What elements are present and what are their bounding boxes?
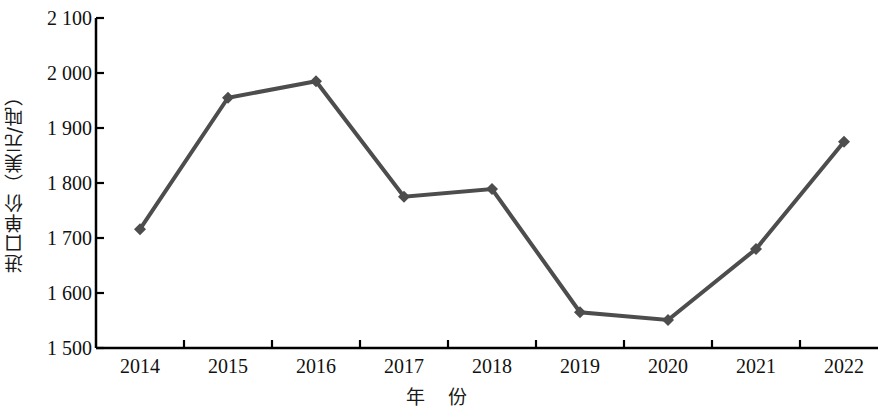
x-tick-label: 2022 (804, 356, 881, 376)
x-tick-label: 2018 (452, 356, 532, 376)
line-chart: 进口单价（美元/吨） 2 100 2 000 1 900 1 800 1 700… (0, 0, 881, 406)
x-axis-tick-labels: 2014 2015 2016 2017 2018 2019 2020 2021 … (0, 0, 881, 406)
x-tick-label: 2019 (540, 356, 620, 376)
x-tick-label: 2014 (100, 356, 180, 376)
x-tick-label: 2016 (276, 356, 356, 376)
x-tick-label: 2015 (188, 356, 268, 376)
x-tick-label: 2020 (628, 356, 708, 376)
x-tick-label: 2021 (716, 356, 796, 376)
x-axis-title: 年 份 (0, 382, 881, 406)
x-tick-label: 2017 (364, 356, 444, 376)
